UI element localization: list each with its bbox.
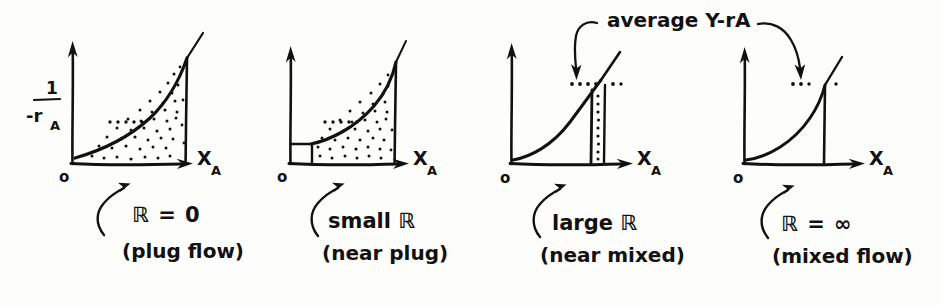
average-annotation-text: average Y-rA [607,8,751,32]
figure-canvas: 1 -r A o X A ℝ = 0 (plug flow) [0,0,941,306]
panel-2-stipple-shading [317,74,394,160]
panel-4-origin-label: o [733,169,743,187]
panel-3-y-axis [507,43,517,164]
panel-3-origin-label: o [500,169,510,187]
average-annotation: average Y-rA [571,8,805,80]
y-axis-denominator-subscript: A [50,118,60,133]
levenspiel-recycle-figure: 1 -r A o X A ℝ = 0 (plug flow) [0,0,941,306]
svg-text:A: A [651,163,661,178]
average-leader-left [575,22,597,68]
panel-2-step-rectangle [291,144,312,163]
svg-text:X: X [413,147,428,169]
panel-1-x-axis [71,159,193,169]
svg-text:X: X [197,147,212,169]
panel-4-x-axis-label: X A [869,147,893,178]
svg-text:X: X [637,147,652,169]
panel-3-caption-line2: (near mixed) [540,243,685,267]
panel-1-origin-label: o [59,168,69,186]
panel-3-caption-line1: large ℝ [552,211,637,235]
panel-2-caption-line1: small ℝ [328,209,415,233]
panel-4-y-axis [740,47,750,164]
average-leader-right [758,23,800,68]
panel-2-caption-line2: (near plug) [322,241,448,265]
panel-2-x-axis [289,159,409,169]
panel-1-caption-line1: ℝ = 0 [132,203,201,227]
panel-4-average-dotted-line [791,82,838,86]
panel-3-x-axis [510,159,633,169]
panel-4-rate-curve [746,85,825,160]
panel-3: o X A large ℝ (near mixed) [500,43,685,267]
svg-text:A: A [211,163,221,178]
panel-1: 1 -r A o X A ℝ = 0 (plug flow) [26,33,244,263]
panel-4-x-axis [743,159,865,169]
panel-1-right-boundary [186,59,187,161]
panel-4-caption-line1: ℝ = ∞ [781,212,853,236]
svg-text:X: X [869,147,884,169]
panel-1-x-axis-label: X A [197,147,221,178]
panel-4: o X A ℝ = ∞ (mixed flow) [733,47,913,268]
panel-1-dotted-level-line [108,120,143,123]
panel-1-caption-arrow [98,181,132,235]
panel-3-rate-curve [513,80,601,160]
panel-4-caption-line2: (mixed flow) [772,244,913,268]
panel-2-y-axis [286,46,296,164]
svg-text:A: A [427,163,437,178]
panel-2-curve-extension [396,41,406,62]
panel-4-right-boundary [824,86,825,163]
panel-2-rate-curve [311,62,396,144]
panel-2-origin-label: o [277,168,287,186]
panel-3-strip-dotted-centerline [596,94,600,160]
y-axis-denominator: -r [26,105,42,126]
y-axis-numerator: 1 [46,78,58,98]
panel-1-caption-line2: (plug flow) [122,239,244,263]
panel-1-rate-curve [75,58,187,158]
panel-2-x-axis-label: X A [413,147,437,178]
panel-3-curve-extension [601,52,620,80]
panel-4-curve-extension [825,57,842,85]
panel-1-y-axis-label: 1 -r A [26,78,60,133]
panel-3-x-axis-label: X A [637,147,661,178]
panel-1-y-axis [68,41,78,164]
svg-text:A: A [883,163,893,178]
panel-2: o X A small ℝ (near plug) [277,41,448,265]
panel-1-curve-extension [187,33,203,58]
panel-2-right-boundary [395,63,396,162]
